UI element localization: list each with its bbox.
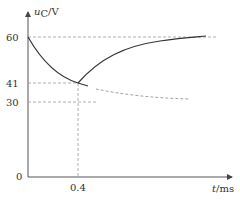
y-tick-30: 30	[6, 97, 19, 108]
discharge-continuation	[96, 89, 190, 99]
y-tick-41: 41	[6, 78, 19, 89]
y-tick-60: 60	[6, 32, 19, 43]
origin-label: 0	[16, 171, 22, 182]
charge-curve	[78, 36, 206, 83]
x-tick-0.4: 0.4	[70, 182, 86, 193]
y-axis-label: uC/V	[34, 6, 59, 19]
x-axis-label: t/ms	[212, 183, 234, 194]
chart: 60 41 30 0 0.4 uC/V t/ms	[0, 0, 240, 200]
discharge-curve	[28, 37, 88, 86]
